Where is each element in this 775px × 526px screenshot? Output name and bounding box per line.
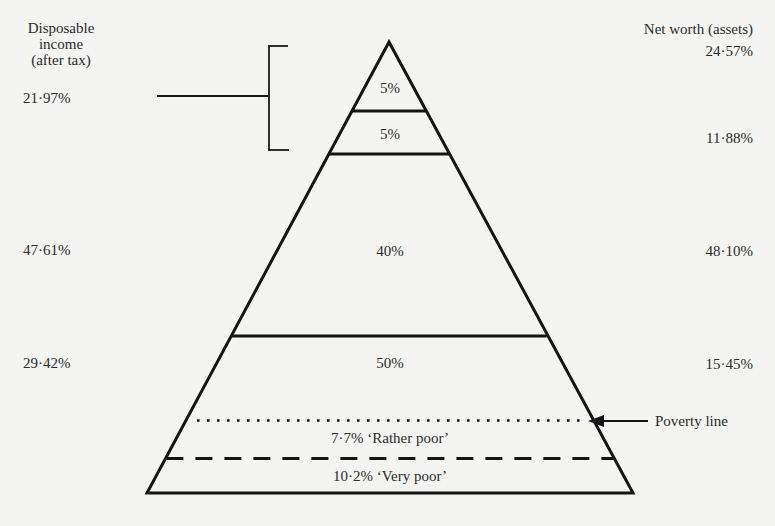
rather-poor-label: 7·7% ‘Rather poor’ (331, 430, 449, 446)
income-top10-value: 21·97% (23, 90, 71, 106)
heading-line: (after tax) (20, 52, 102, 68)
tier-label-next5: 5% (380, 126, 400, 142)
heading-line: income (20, 36, 102, 52)
tier-label-bottom50: 50% (376, 355, 404, 371)
networth-top5-value: 24·57% (706, 43, 754, 59)
tier-label-top5: 5% (380, 80, 400, 96)
tier-label-next40: 40% (376, 243, 404, 259)
net-worth-heading: Net worth (assets) (644, 21, 753, 37)
heading-line: Disposable (20, 20, 102, 36)
networth-bottom50-value: 15·45% (706, 356, 754, 372)
income-bottom50-value: 29·42% (23, 355, 71, 371)
disposable-income-heading: Disposable income (after tax) (20, 20, 102, 68)
income-wealth-pyramid-diagram: Disposable income (after tax) 21·97% 47·… (0, 0, 775, 526)
very-poor-label: 10·2% ‘Very poor’ (333, 468, 447, 484)
income-next40-value: 47·61% (23, 242, 71, 258)
networth-next40-value: 48·10% (706, 243, 754, 259)
bracket-top10 (157, 46, 289, 150)
poverty-line-label: Poverty line (655, 413, 728, 429)
pyramid-graphic (0, 0, 775, 526)
networth-next5-value: 11·88% (706, 130, 753, 146)
